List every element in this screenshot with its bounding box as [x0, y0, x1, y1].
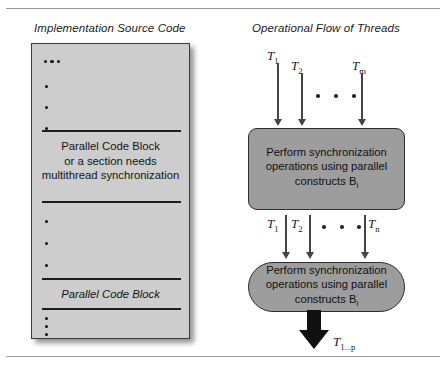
thread-arrow-mid-3-head [361, 252, 369, 259]
sync-stage-1-text: Perform synchronization operations using… [266, 145, 387, 193]
thread-arrow-mid-2-head [306, 252, 314, 259]
thread-arrow-mid-1-shaft [285, 215, 287, 253]
sync-stage-2-construct-sub: i [356, 299, 358, 308]
code-line-dot [45, 264, 48, 267]
code-separator-rule [42, 278, 181, 280]
source-code-panel: Parallel Code Block or a section needs m… [31, 43, 190, 339]
thread-arrow-top-3-head [358, 119, 366, 126]
sync-stage-2-box: Perform synchronization operations using… [248, 262, 405, 312]
parallel-code-block-italic-label: Parallel Code Block [32, 287, 189, 302]
sync-stage-1-box: Perform synchronization operations using… [248, 128, 405, 210]
output-thread-sub: 1...p [340, 342, 355, 352]
code-separator-rule [42, 130, 181, 132]
thread-arrow-top-2-shaft [301, 73, 303, 120]
flow-ellipsis-dot [352, 94, 356, 98]
thread-arrow-mid-2-shaft [309, 215, 311, 253]
thread-label-sub: 1 [274, 224, 278, 234]
thread-arrow-mid-3-shaft [364, 215, 366, 253]
sync-stage-2-line-1: Perform synchronization [266, 263, 387, 277]
thread-label-sub: n [375, 224, 379, 234]
code-line-dot [45, 106, 48, 109]
right-panel-title: Operational Flow of Threads [252, 22, 400, 34]
parallel-block-line-1: Parallel Code Block [32, 139, 189, 154]
sync-stage-1-construct: constructs B [295, 175, 357, 187]
code-line-dot [45, 85, 48, 88]
output-thread-label: T1...p [333, 334, 355, 352]
ellipsis-dot [57, 60, 60, 63]
thread-label-mid-1: T1 [267, 216, 279, 234]
flow-ellipsis-dot [322, 225, 326, 229]
code-line-dot [45, 325, 48, 328]
thread-arrow-mid-1-head [282, 252, 290, 259]
thread-label-top-3: Tm [352, 58, 366, 76]
output-arrow-shaft [307, 310, 321, 332]
code-separator-rule [42, 308, 181, 310]
thread-arrow-top-2-head [298, 119, 306, 126]
sync-stage-1-line-3: constructs Bi [266, 174, 387, 194]
sync-stage-2-text: Perform synchronization operations using… [266, 263, 387, 311]
thread-label-mid-3: Tn [368, 216, 380, 234]
thread-label-sub: 2 [298, 224, 302, 234]
sync-stage-2-line-2: operations using parallel [266, 277, 387, 291]
flow-ellipsis-dot [357, 225, 361, 229]
flow-ellipsis-dot [340, 225, 344, 229]
flow-ellipsis-dot [334, 94, 338, 98]
sync-stage-1-line-1: Perform synchronization [266, 145, 387, 159]
sync-stage-1-construct-sub: i [356, 181, 358, 190]
thread-arrow-top-3-shaft [361, 73, 363, 120]
flow-ellipsis-dot [316, 94, 320, 98]
code-line-dot [45, 317, 48, 320]
sync-stage-1-line-2: operations using parallel [266, 159, 387, 173]
ellipsis-dot [44, 60, 47, 63]
output-arrow-head [299, 330, 329, 349]
parallel-block-line-3: multithread synchronization [32, 168, 189, 183]
bottom-divider-rule [6, 356, 440, 357]
left-panel-title: Implementation Source Code [34, 22, 186, 34]
thread-arrow-top-1-shaft [277, 63, 279, 120]
code-ellipsis-horizontal [44, 60, 60, 63]
code-line-dot [45, 242, 48, 245]
code-line-dot [45, 220, 48, 223]
thread-label-mid-2: T2 [291, 216, 303, 234]
sync-stage-2-line-3: constructs Bi [266, 292, 387, 312]
sync-stage-2-construct: constructs B [295, 293, 357, 305]
figure-root: Implementation Source Code Parallel Code… [0, 0, 446, 371]
top-divider-rule [6, 8, 440, 9]
code-separator-rule [42, 201, 181, 203]
ellipsis-dot [50, 60, 53, 63]
parallel-block-line-2: or a section needs [32, 154, 189, 169]
code-line-dot [45, 333, 48, 336]
thread-arrow-top-1-head [274, 119, 282, 126]
